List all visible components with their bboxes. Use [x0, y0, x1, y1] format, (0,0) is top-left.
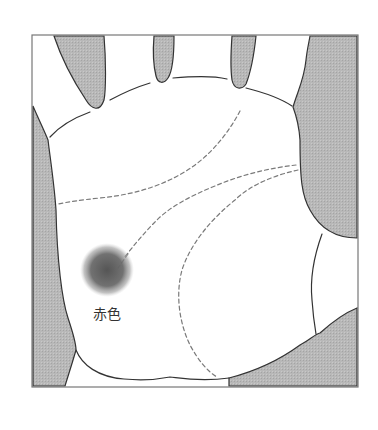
palm-diagram: [0, 0, 378, 430]
red-spot-marker: [80, 243, 134, 297]
spot-blob: [80, 243, 134, 297]
spot-label: 赤色: [93, 303, 121, 323]
